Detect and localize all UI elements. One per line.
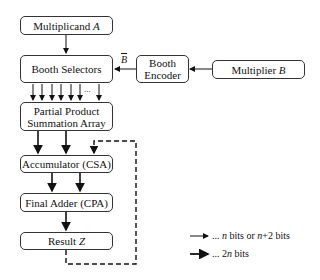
accumulator-box: Accumulator (CSA) xyxy=(20,155,113,173)
result-var: Z xyxy=(79,235,85,247)
b-tilde-label: B xyxy=(121,54,127,65)
accumulator-label: Accumulator (CSA) xyxy=(22,158,111,170)
pp-array-line2: Summation Array xyxy=(27,117,106,129)
final-adder-box: Final Adder (CPA) xyxy=(20,193,113,212)
multiplier-label: Multiplier xyxy=(231,64,276,76)
multiplier-box: Multiplier B xyxy=(212,60,305,79)
arrows-accumulator-to-adder xyxy=(52,173,80,191)
pp-array-box: Partial Product Summation Array xyxy=(20,102,113,131)
booth-selectors-label: Booth Selectors xyxy=(32,63,102,75)
booth-encoder-box: Booth Encoder xyxy=(136,55,189,83)
legend-thin: ... n bits or n+2 bits xyxy=(212,230,290,241)
final-adder-label: Final Adder (CPA) xyxy=(25,197,108,209)
multiplicand-box: Multiplicand A xyxy=(20,16,113,35)
legend-thick: ... 2n bits xyxy=(212,248,249,259)
booth-encoder-line1: Booth xyxy=(149,57,176,69)
multiplicand-label: Multiplicand xyxy=(33,20,90,32)
booth-encoder-line2: Encoder xyxy=(144,69,181,81)
booth-selectors-box: Booth Selectors xyxy=(20,55,113,83)
result-label: Result xyxy=(48,235,76,247)
multiplicand-var: A xyxy=(93,20,100,32)
result-box: Result Z xyxy=(20,232,113,250)
pp-array-line1: Partial Product xyxy=(34,105,100,117)
arrows-pp-to-accumulator xyxy=(38,131,66,153)
ellipsis-label: ... xyxy=(84,84,91,94)
multiplier-var: B xyxy=(279,64,286,76)
